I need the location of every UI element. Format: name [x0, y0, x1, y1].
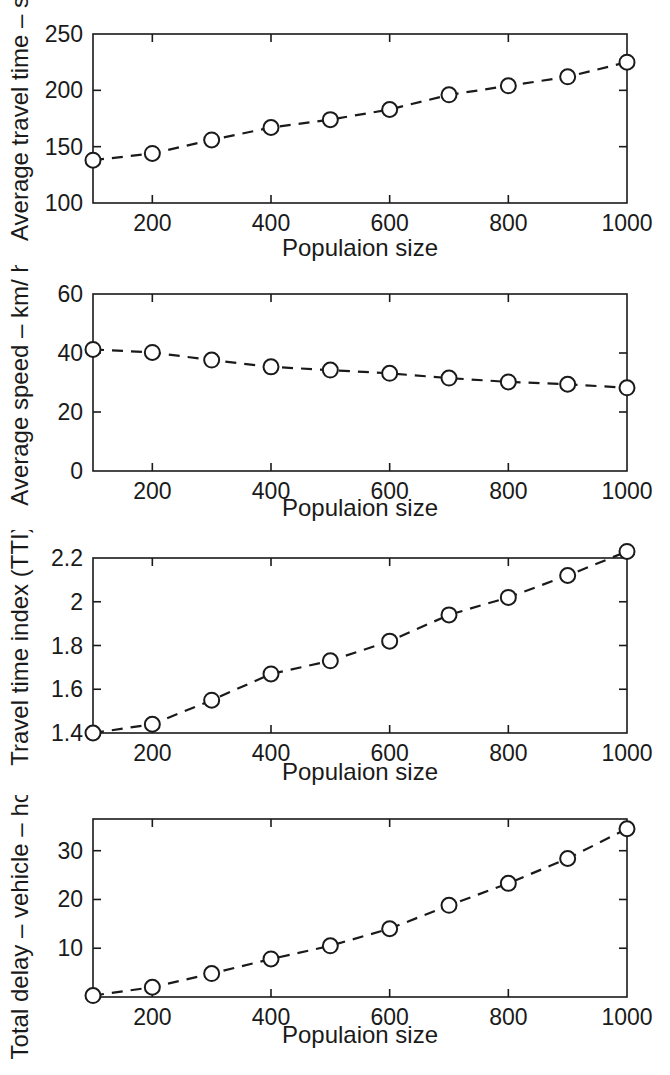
data-point-marker: [620, 380, 635, 395]
x-axis-title: Populaion size: [282, 494, 438, 521]
data-point-marker: [323, 653, 338, 668]
data-point-marker: [264, 666, 279, 681]
y-tick-label: 10: [57, 935, 83, 961]
data-point-marker: [323, 363, 338, 378]
data-point-marker: [501, 78, 516, 93]
data-point-marker: [382, 921, 397, 936]
chart-panel-total-delay: 1020302004006008001000Populaion sizeTota…: [0, 795, 670, 1063]
data-point-marker: [86, 726, 101, 741]
data-point-marker: [264, 359, 279, 374]
data-point-marker: [264, 120, 279, 135]
x-tick-label: 400: [252, 210, 290, 236]
series-line-total-delay: [93, 829, 627, 996]
data-point-marker: [204, 966, 219, 981]
y-tick-label: 2.2: [51, 545, 83, 571]
data-point-marker: [560, 851, 575, 866]
data-point-marker: [501, 374, 516, 389]
x-axis-title: Populaion size: [282, 758, 438, 785]
data-point-marker: [145, 980, 160, 995]
data-point-marker: [560, 377, 575, 392]
data-point-marker: [86, 153, 101, 168]
y-tick-label: 40: [57, 340, 83, 366]
data-point-marker: [442, 87, 457, 102]
plot-frame: [93, 294, 627, 471]
plot-frame: [93, 819, 627, 997]
y-tick-label: 100: [45, 190, 83, 216]
data-point-marker: [204, 693, 219, 708]
x-tick-label: 800: [489, 1004, 527, 1030]
x-tick-label: 1000: [601, 1004, 652, 1030]
chart-panel-average-speed: 02040602004006008001000Populaion sizeAve…: [0, 265, 670, 533]
data-point-marker: [560, 69, 575, 84]
data-point-marker: [264, 951, 279, 966]
x-tick-label: 1000: [601, 478, 652, 504]
data-point-marker: [620, 544, 635, 559]
x-tick-label: 1000: [601, 740, 652, 766]
y-tick-label: 250: [45, 21, 83, 47]
y-axis-title: Average travel time – s: [6, 0, 33, 241]
chart-canvas-travel-time-index: 1.41.61.822.22004006008001000Populaion s…: [0, 530, 670, 798]
data-point-marker: [501, 590, 516, 605]
x-tick-label: 800: [489, 478, 527, 504]
series-line-travel-time-index: [93, 551, 627, 733]
y-tick-label: 30: [57, 838, 83, 864]
data-point-marker: [145, 717, 160, 732]
x-tick-label: 800: [489, 210, 527, 236]
y-tick-label: 1.6: [51, 676, 83, 702]
data-point-marker: [323, 938, 338, 953]
data-point-marker: [323, 112, 338, 127]
y-tick-label: 60: [57, 281, 83, 307]
data-point-marker: [382, 366, 397, 381]
y-axis-title: Travel time index (TTI): [6, 530, 33, 766]
series-line-average-speed: [93, 349, 627, 387]
y-axis-title: Total delay – vehicle – hours: [6, 795, 33, 1059]
data-point-marker: [86, 342, 101, 357]
data-point-marker: [442, 898, 457, 913]
y-tick-label: 200: [45, 77, 83, 103]
data-point-marker: [382, 634, 397, 649]
chart-panel-travel-time-index: 1.41.61.822.22004006008001000Populaion s…: [0, 530, 670, 798]
data-point-marker: [382, 102, 397, 117]
x-tick-label: 600: [370, 210, 408, 236]
x-tick-label: 200: [133, 210, 171, 236]
series-line-average-travel-time: [93, 62, 627, 160]
x-tick-label: 200: [133, 478, 171, 504]
chart-canvas-average-speed: 02040602004006008001000Populaion sizeAve…: [0, 265, 670, 533]
y-axis-title: Average speed – km/ h: [6, 265, 33, 506]
chart-canvas-total-delay: 1020302004006008001000Populaion sizeTota…: [0, 795, 670, 1063]
x-tick-label: 200: [133, 1004, 171, 1030]
data-point-marker: [501, 876, 516, 891]
chart-canvas-average-travel-time: 1001502002502004006008001000Populaion si…: [0, 0, 670, 268]
figure-panel-stack: 1001502002502004006008001000Populaion si…: [0, 0, 670, 1075]
chart-panel-average-travel-time: 1001502002502004006008001000Populaion si…: [0, 0, 670, 268]
data-point-marker: [442, 371, 457, 386]
data-point-marker: [86, 988, 101, 1003]
data-point-marker: [145, 146, 160, 161]
data-point-marker: [560, 568, 575, 583]
data-point-marker: [204, 132, 219, 147]
y-tick-label: 2: [70, 589, 83, 615]
x-tick-label: 800: [489, 740, 527, 766]
x-tick-label: 200: [133, 740, 171, 766]
plot-frame: [93, 34, 627, 203]
y-tick-label: 20: [57, 399, 83, 425]
y-tick-label: 0: [70, 458, 83, 484]
x-axis-title: Populaion size: [282, 1021, 438, 1048]
y-tick-label: 1.8: [51, 633, 83, 659]
x-tick-label: 1000: [601, 210, 652, 236]
data-point-marker: [204, 353, 219, 368]
data-point-marker: [442, 607, 457, 622]
y-tick-label: 20: [57, 886, 83, 912]
y-tick-label: 150: [45, 134, 83, 160]
data-point-marker: [145, 345, 160, 360]
data-point-marker: [620, 821, 635, 836]
x-axis-title: Populaion size: [282, 234, 438, 261]
y-tick-label: 1.4: [51, 720, 83, 746]
data-point-marker: [620, 55, 635, 70]
